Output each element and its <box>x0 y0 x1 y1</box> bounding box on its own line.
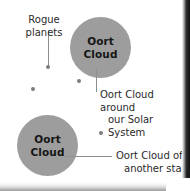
caption-solar-system-line2: our Solar System <box>100 114 188 139</box>
rogue-planet-dot <box>46 65 50 69</box>
page-edge-bottom <box>0 182 190 191</box>
caption-solar-system-line1: Oort Cloud around <box>100 89 188 114</box>
diagram-canvas: Oort Cloud Oort Cloud Rogue planets Oort… <box>0 0 190 191</box>
caption-another-star-line1: Oort Cloud of <box>116 150 190 163</box>
label-rogue-planets: Rogue planets <box>14 14 74 39</box>
oort-cloud-solar-label-line1: Oort <box>87 35 114 48</box>
caption-solar-system: Oort Cloud around our Solar System <box>100 89 188 139</box>
oort-cloud-another-star: Oort Cloud <box>17 115 78 176</box>
rogue-planet-dot <box>77 79 81 83</box>
oort-cloud-other-label-line1: Oort <box>34 133 61 146</box>
oort-cloud-solar-system: Oort Cloud <box>70 17 131 78</box>
label-rogue-planets-line1: Rogue <box>14 14 74 27</box>
page-edge-corner-fade <box>166 178 190 191</box>
page-edge-right <box>182 0 190 178</box>
rogue-planet-dot <box>31 87 35 91</box>
leader-line-solar-caption <box>96 69 97 92</box>
leader-line-other-star-caption <box>64 156 112 157</box>
oort-cloud-solar-label-line2: Cloud <box>83 48 117 61</box>
oort-cloud-other-label-line2: Cloud <box>30 146 64 159</box>
label-rogue-planets-line2: planets <box>14 27 74 40</box>
